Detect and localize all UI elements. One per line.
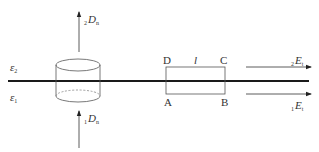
corner-a-label: A (164, 97, 172, 108)
d2n-label: 2Dn (84, 14, 99, 25)
boundary-conditions-diagram: ε2 ε1 2Dn 1Dn D l C A B 2Et 1Et (0, 0, 319, 152)
corner-c-label: C (220, 55, 227, 66)
corner-b-label: B (221, 97, 228, 108)
length-l-label: l (194, 55, 197, 66)
e2t-label: 2Et (291, 55, 303, 66)
diagram-graphics (0, 0, 319, 152)
corner-d-label: D (163, 55, 171, 66)
epsilon-2-label: ε2 (10, 62, 17, 73)
epsilon-1-label: ε1 (10, 92, 17, 103)
e1t-label: 1Et (291, 100, 303, 111)
d1n-label: 1Dn (84, 113, 99, 124)
